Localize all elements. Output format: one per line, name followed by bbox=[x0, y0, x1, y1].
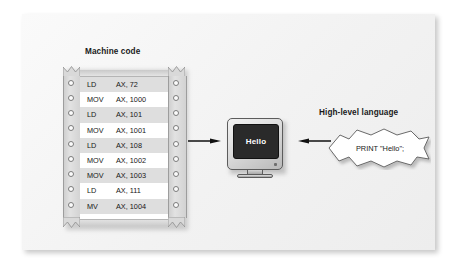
code-mnemonic: LD bbox=[87, 107, 96, 122]
sprocket-hole bbox=[68, 110, 74, 116]
sprocket-hole bbox=[68, 171, 74, 177]
code-row: LD AX, 108 bbox=[80, 138, 168, 153]
sprocket-hole bbox=[173, 171, 179, 177]
sprocket-hole bbox=[173, 125, 179, 131]
code-operand: AX, 1001 bbox=[116, 123, 146, 138]
high-level-code-text: PRINT "Hello"; bbox=[327, 126, 431, 170]
code-mnemonic: LD bbox=[87, 77, 96, 92]
sprocket-hole bbox=[68, 80, 74, 86]
code-operand: AX, 1002 bbox=[116, 153, 146, 168]
sprocket-hole bbox=[173, 95, 179, 101]
code-mnemonic: MOV bbox=[87, 168, 104, 183]
code-operand: AX, 101 bbox=[116, 107, 142, 122]
sprocket-hole bbox=[173, 110, 179, 116]
code-operand: AX, 1004 bbox=[116, 199, 146, 214]
monitor-case: Hello bbox=[227, 118, 283, 170]
code-row: MOV AX, 1001 bbox=[80, 123, 168, 138]
sprocket-strip-right bbox=[168, 66, 185, 228]
code-mnemonic: MV bbox=[87, 199, 98, 214]
high-level-language-heading: High-level language bbox=[319, 108, 398, 117]
tear-edge-bottom-left bbox=[63, 217, 80, 228]
machine-code-heading: Machine code bbox=[85, 47, 140, 56]
power-led-icon bbox=[274, 163, 277, 166]
code-mnemonic: LD bbox=[87, 183, 96, 198]
monitor-screen: Hello bbox=[233, 124, 279, 159]
figure-panel: Machine code bbox=[22, 14, 435, 250]
code-operand: AX, 72 bbox=[116, 77, 138, 92]
arrow-left-icon bbox=[297, 134, 331, 152]
tear-edge-bottom-right bbox=[168, 217, 185, 228]
arrow-right-icon bbox=[188, 134, 222, 152]
code-row: MOV AX, 1002 bbox=[80, 153, 168, 168]
sprocket-hole bbox=[68, 125, 74, 131]
code-row: MOV AX, 1003 bbox=[80, 168, 168, 183]
code-operand: AX, 1003 bbox=[116, 168, 146, 183]
sprocket-hole bbox=[68, 186, 74, 192]
code-row: MOV AX, 1000 bbox=[80, 92, 168, 107]
high-level-code-callout: PRINT "Hello"; bbox=[327, 126, 431, 170]
machine-code-printout: LD AX, 72 MOV AX, 1000 LD AX, 101 MOV AX… bbox=[63, 66, 185, 228]
code-row: LD AX, 111 bbox=[80, 183, 168, 198]
sprocket-hole bbox=[173, 202, 179, 208]
code-row: LD AX, 72 bbox=[80, 77, 168, 92]
screen-output-text: Hello bbox=[246, 137, 267, 146]
monitor-base bbox=[237, 174, 273, 178]
computer-monitor: Hello bbox=[227, 118, 287, 178]
code-operand: AX, 1000 bbox=[116, 92, 146, 107]
sprocket-hole bbox=[68, 156, 74, 162]
code-operand: AX, 108 bbox=[116, 138, 142, 153]
sprocket-hole bbox=[173, 186, 179, 192]
sprocket-hole bbox=[68, 141, 74, 147]
sprocket-strip-left bbox=[63, 66, 80, 228]
sprocket-hole bbox=[173, 141, 179, 147]
code-row: MV AX, 1004 bbox=[80, 199, 168, 214]
code-operand: AX, 111 bbox=[116, 183, 141, 198]
code-row: LD AX, 101 bbox=[80, 107, 168, 122]
code-mnemonic: LD bbox=[87, 138, 96, 153]
sprocket-hole bbox=[68, 95, 74, 101]
machine-code-listing: LD AX, 72 MOV AX, 1000 LD AX, 101 MOV AX… bbox=[80, 76, 168, 220]
sprocket-hole bbox=[68, 202, 74, 208]
sprocket-hole bbox=[173, 80, 179, 86]
code-mnemonic: MOV bbox=[87, 153, 104, 168]
code-mnemonic: MOV bbox=[87, 92, 104, 107]
code-mnemonic: MOV bbox=[87, 123, 104, 138]
sprocket-hole bbox=[173, 156, 179, 162]
